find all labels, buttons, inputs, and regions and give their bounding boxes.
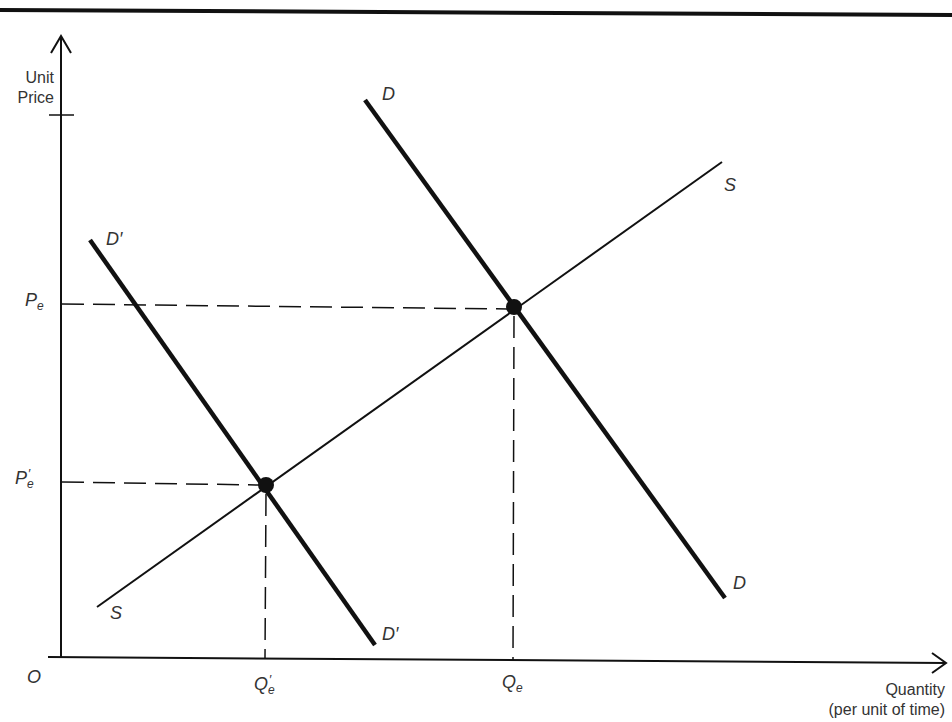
y-axis-title-line2: Price xyxy=(6,88,54,108)
pe-sub: e xyxy=(37,299,44,313)
qe-prime-guide xyxy=(265,494,266,658)
pe-main: P xyxy=(25,290,37,310)
top-rule xyxy=(0,10,952,15)
qe-prime-label: Qe′ xyxy=(254,672,271,697)
pe-prime-guide xyxy=(62,482,260,485)
demand-shifted-label-top: D′ xyxy=(106,229,122,250)
supply-label-bottom: S xyxy=(110,603,122,624)
supply-label-top: S xyxy=(724,175,736,196)
origin-label: O xyxy=(27,667,41,688)
demand-label-top: D xyxy=(382,84,395,105)
y-axis-title-line1: Unit xyxy=(18,68,54,88)
pe-guide xyxy=(62,304,508,309)
demand-label-bottom: D xyxy=(733,573,746,594)
pe-label: Pe xyxy=(25,290,44,313)
x-axis-title-line2: (per unit of time) xyxy=(780,700,945,720)
equilibrium-point xyxy=(506,299,522,315)
x-axis-title: Quantity (per unit of time) xyxy=(780,680,945,720)
qe-guide xyxy=(513,316,514,660)
x-axis-title-line1: Quantity xyxy=(780,680,945,700)
qe-prime-main: Q xyxy=(254,674,268,694)
demand-shifted-label-bottom: D′ xyxy=(382,624,398,645)
x-axis xyxy=(48,653,946,673)
pe-prime-main: P xyxy=(15,468,27,488)
y-axis xyxy=(49,36,74,658)
pe-prime-label: Pe′ xyxy=(15,466,30,491)
y-axis-title: Unit Price xyxy=(18,68,54,108)
demand-curve-shifted xyxy=(90,240,375,645)
pe-prime-mark: ′ xyxy=(28,466,30,481)
qe-prime-mark: ′ xyxy=(269,672,271,687)
qe-sub: e xyxy=(516,681,523,695)
supply-demand-diagram xyxy=(0,0,952,722)
demand-curve xyxy=(365,100,725,598)
qe-main: Q xyxy=(502,672,516,692)
equilibrium-point-shifted xyxy=(258,477,274,493)
qe-label: Qe xyxy=(502,672,523,695)
